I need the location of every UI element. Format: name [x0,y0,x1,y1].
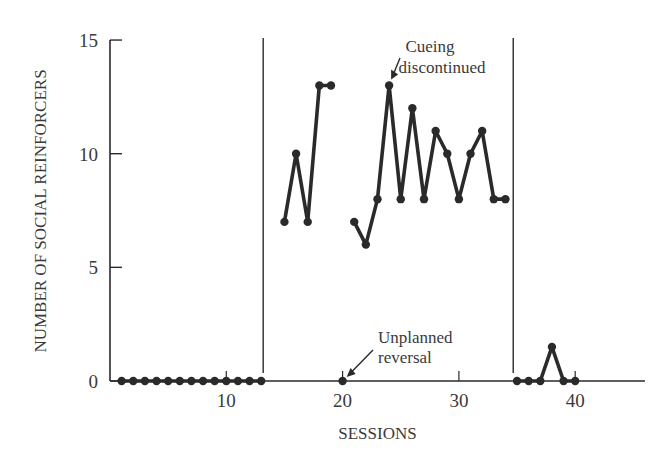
data-point [524,377,532,385]
data-point [234,377,242,385]
annotation-reversal-line1: Unplanned [378,328,453,347]
y-axis-label: NUMBER OF SOCIAL REINFORCERS [31,69,50,352]
data-point [571,377,579,385]
data-point [443,150,451,158]
data-point [373,195,381,203]
data-line-reversal [517,347,575,381]
data-point [280,218,288,226]
data-point [176,377,184,385]
chart-container: 05101510203040SESSIONSNUMBER OF SOCIAL R… [0,0,666,456]
data-point [501,195,509,203]
data-point [245,377,253,385]
data-line-treatment-1 [284,86,331,222]
x-tick-label: 20 [333,390,352,411]
data-point [210,377,218,385]
annotation-reversal-line2: reversal [378,348,432,367]
data-point [199,377,207,385]
data-point [292,150,300,158]
data-point [304,218,312,226]
data-point [257,377,265,385]
data-point [327,81,335,89]
data-point [141,377,149,385]
data-point [385,81,393,89]
data-point [338,377,346,385]
annotation-cueing-line2: discontinued [399,58,486,77]
data-point [222,377,230,385]
data-point [536,377,544,385]
data-point [548,343,556,351]
data-point [362,240,370,248]
line-chart: 05101510203040SESSIONSNUMBER OF SOCIAL R… [0,0,666,456]
y-tick-label: 10 [79,144,98,165]
data-point [152,377,160,385]
data-point [455,195,463,203]
data-point [129,377,137,385]
annotation-cueing-line1: Cueing [405,37,455,56]
data-point [397,195,405,203]
x-tick-label: 30 [449,390,468,411]
data-point [431,127,439,135]
data-point [478,127,486,135]
y-tick-label: 5 [89,257,99,278]
x-tick-label: 40 [566,390,585,411]
data-point [315,81,323,89]
data-line-treatment-2 [354,86,505,245]
data-point [513,377,521,385]
x-axis-label: SESSIONS [338,424,416,443]
data-point [420,195,428,203]
data-point [490,195,498,203]
y-tick-label: 0 [89,371,99,392]
data-point [559,377,567,385]
data-point [350,218,358,226]
data-point [408,104,416,112]
data-point [164,377,172,385]
x-tick-label: 10 [217,390,236,411]
data-point [466,150,474,158]
y-tick-label: 15 [79,30,98,51]
data-point [187,377,195,385]
data-point [117,377,125,385]
